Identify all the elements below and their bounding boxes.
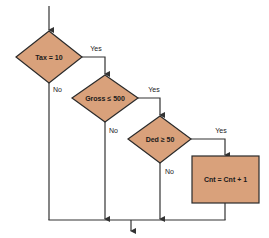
flowchart: Tax = 10 Gross ≤ 500 Ded ≥ 50 Cnt = Cnt … [0, 0, 269, 238]
decision-ded: Ded ≥ 50 [128, 116, 191, 163]
process-cnt-label: Cnt = Cnt + 1 [204, 176, 247, 183]
process-cnt: Cnt = Cnt + 1 [192, 156, 259, 203]
decision-ded-label: Ded ≥ 50 [146, 136, 175, 143]
edge-d3-yes [191, 139, 225, 155]
decision-tax-label: Tax = 10 [35, 54, 62, 61]
edge-d1-yes [82, 57, 105, 74]
label-d1-no: No [53, 86, 62, 93]
label-d1-yes: Yes [90, 45, 102, 52]
label-d2-yes: Yes [148, 86, 160, 93]
label-d3-yes: Yes [215, 127, 227, 134]
label-d3-no: No [165, 168, 174, 175]
label-d2-no: No [109, 127, 118, 134]
decision-gross-label: Gross ≤ 500 [85, 95, 125, 102]
decision-gross: Gross ≤ 500 [72, 75, 138, 122]
edge-d2-yes [138, 98, 160, 115]
decision-tax: Tax = 10 [16, 31, 82, 83]
